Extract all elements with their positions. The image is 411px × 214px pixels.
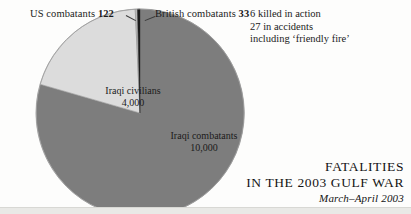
callout-british-combatants-text: British combatants bbox=[155, 8, 239, 19]
callout-british-combatants: British combatants 33 bbox=[155, 8, 249, 20]
pie-label-iraqi-civilians-value: 4,000 bbox=[122, 97, 145, 108]
chart-subtitle: March–April 2003 bbox=[246, 191, 404, 205]
callout-us-combatants-text: US combatants bbox=[30, 8, 98, 19]
note-line-1: 6 killed in action bbox=[250, 8, 350, 21]
chart-title-line-1: FATALITIES bbox=[246, 159, 404, 175]
chart-figure: Iraqi civilians 4,000 Iraqi combatants 1… bbox=[0, 0, 411, 214]
callout-us-combatants-value: 122 bbox=[98, 8, 114, 19]
pie-chart: Iraqi civilians 4,000 Iraqi combatants 1… bbox=[34, 7, 246, 214]
callout-us-combatants: US combatants 122 bbox=[30, 8, 114, 20]
pie-chart-svg bbox=[34, 7, 246, 214]
pie-label-iraqi-combatants-name: Iraqi combatants bbox=[171, 130, 238, 141]
chart-title-block: FATALITIES IN THE 2003 GULF WAR March–Ap… bbox=[246, 159, 404, 205]
callout-british-combatants-value: 33 bbox=[239, 8, 250, 19]
pie-label-iraqi-combatants: Iraqi combatants 10,000 bbox=[146, 130, 262, 153]
chart-title-line-2: IN THE 2003 GULF WAR bbox=[246, 175, 404, 191]
note-line-3: including ‘friendly fire’ bbox=[250, 33, 350, 46]
note-line-2: 27 in accidents bbox=[250, 21, 350, 34]
bottom-band bbox=[0, 207, 411, 214]
notes-block: 6 killed in action 27 in accidents inclu… bbox=[250, 8, 350, 46]
pie-label-iraqi-civilians: Iraqi civilians 4,000 bbox=[84, 85, 182, 108]
pie-label-iraqi-combatants-value: 10,000 bbox=[190, 142, 218, 153]
pie-label-iraqi-civilians-name: Iraqi civilians bbox=[105, 85, 160, 96]
